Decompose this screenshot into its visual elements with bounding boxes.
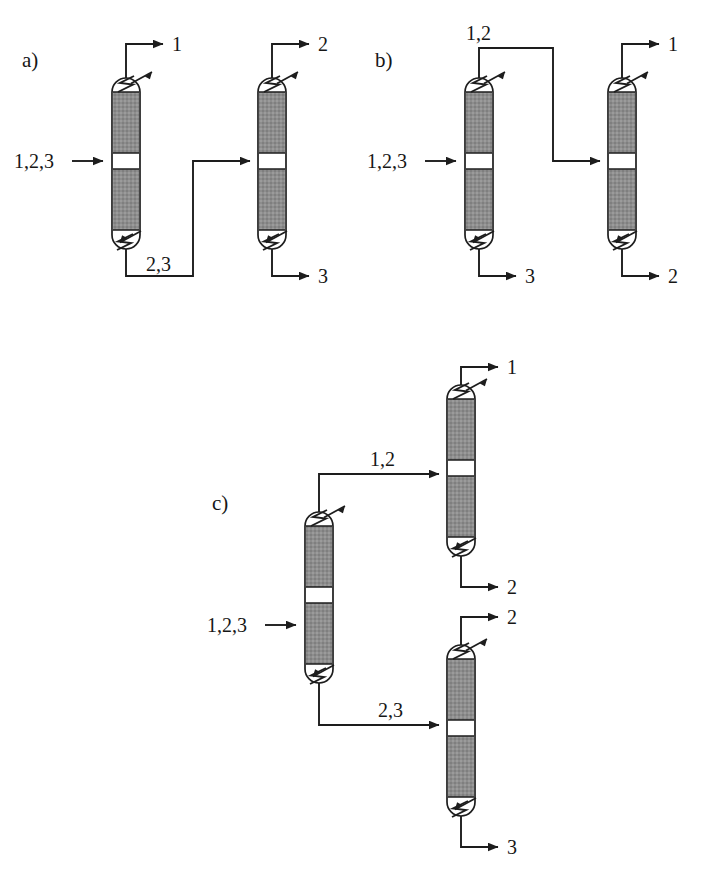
stream-c-feed-label: 1,2,3 <box>207 614 247 636</box>
packing-section-lower <box>113 169 139 230</box>
stream-b-c2-bottom-label: 2 <box>668 265 678 287</box>
packing-section-lower <box>609 169 635 230</box>
packing-section-upper <box>448 659 474 720</box>
stream-c-c2-top-label: 1 <box>507 356 517 378</box>
panel-a-label: a) <box>22 48 38 72</box>
stream-a-c1-top-label: 1 <box>172 33 182 55</box>
stream-a-c2-top-label: 2 <box>318 33 328 55</box>
packing-section-lower <box>466 169 492 230</box>
stream-c-c2-bottom-label: 2 <box>507 576 517 598</box>
packing-section-upper <box>259 92 285 153</box>
stream-c-c1-bottom-label: 2,3 <box>378 699 403 721</box>
flowsheet-canvas: a) 1 <box>0 0 715 887</box>
packing-section-upper <box>113 92 139 153</box>
packing-section-lower <box>306 603 332 664</box>
packing-section-lower <box>259 169 285 230</box>
stream-c-c3-top-label: 2 <box>507 606 517 628</box>
stream-a-c2-bottom-label: 3 <box>318 265 328 287</box>
stream-b-c2-top-label: 1 <box>668 33 678 55</box>
packing-section-upper <box>466 92 492 153</box>
stream-c-c3-bottom-label: 3 <box>507 836 517 858</box>
stream-a-c1-bottom-label: 2,3 <box>146 253 171 275</box>
stream-b-c1-top-label: 1,2 <box>466 22 491 44</box>
packing-section-lower <box>448 476 474 537</box>
stream-b-c1-bottom-label: 3 <box>525 265 535 287</box>
packing-section-upper <box>448 399 474 460</box>
process-flow-diagram: a) 1 <box>0 0 715 887</box>
panel-b-label: b) <box>375 48 393 72</box>
stream-a-feed-label: 1,2,3 <box>14 150 54 172</box>
packing-section-lower <box>448 736 474 797</box>
packing-section-upper <box>609 92 635 153</box>
stream-b-feed-label: 1,2,3 <box>367 150 407 172</box>
panel-c-label: c) <box>212 491 228 515</box>
stream-c-c1-top-label: 1,2 <box>370 448 395 470</box>
packing-section-upper <box>306 526 332 587</box>
